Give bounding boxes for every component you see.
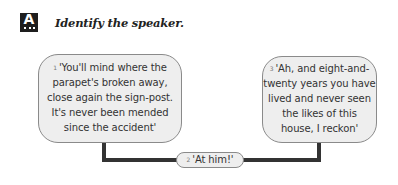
bubble-3-line-3: lived and never seen <box>263 91 376 106</box>
connector-right-horizontal <box>242 158 321 162</box>
bubble-number: 2 <box>187 156 191 163</box>
bubble-3-line-2: twenty years you have <box>263 76 376 91</box>
bubble-1-line-4: It's never been mended <box>39 105 181 120</box>
connector-right-vertical <box>317 142 321 162</box>
bubble-3-line-5: house, I reckon' <box>263 121 376 136</box>
bubble-1-line-5: since the accident' <box>39 120 181 135</box>
connector-left-horizontal <box>102 158 178 162</box>
task-letter: A <box>20 11 38 27</box>
speech-bubble-1: 1'You'll mind where the parapet's broken… <box>38 54 182 143</box>
speech-bubble-2: 2'At him!' <box>176 152 244 168</box>
bubble-1-line-1: 1'You'll mind where the <box>39 60 181 75</box>
bubble-number: 3 <box>270 65 274 72</box>
bubble-number: 1 <box>53 64 57 71</box>
speech-bubble-3: 3'Ah, and eight-and- twenty years you ha… <box>262 56 377 143</box>
bubble-3-line-1: 3'Ah, and eight-and- <box>263 61 376 76</box>
bubble-1-line-3: close again the sign-post. <box>39 90 181 105</box>
bubble-2-line-1: 'At him!' <box>192 154 233 165</box>
bubble-1-line-2: parapet's broken away, <box>39 75 181 90</box>
task-a-icon: A <box>20 13 38 32</box>
bubble-3-line-4: the likes of this <box>263 106 376 121</box>
task-title: Identify the speaker. <box>55 16 184 30</box>
dots-icon <box>24 27 35 30</box>
